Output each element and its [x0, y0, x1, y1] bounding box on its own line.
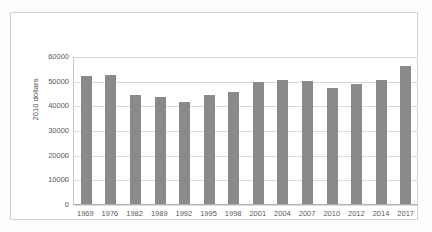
y-axis-tick-labels: 0100002000030000400005000060000	[15, 57, 69, 205]
bar[interactable]	[105, 75, 116, 204]
x-axis-tick-label: 2017	[393, 209, 418, 223]
x-axis-tick-label: 1982	[122, 209, 147, 223]
x-axis-tick-label: 1995	[196, 209, 221, 223]
bar[interactable]	[253, 82, 264, 204]
y-axis-tick-label: 30000	[17, 127, 69, 135]
bar[interactable]	[204, 95, 215, 204]
y-axis-tick-label: 50000	[17, 78, 69, 86]
chart-figure: 2010 dollars 010000200003000040000500006…	[0, 0, 432, 232]
x-axis-tick-label: 1969	[73, 209, 98, 223]
bar-slot	[99, 57, 124, 204]
y-axis-tick-label: 20000	[17, 152, 69, 160]
x-axis-tick-label: 2014	[369, 209, 394, 223]
bar-slot	[197, 57, 222, 204]
y-axis-tick-label: 40000	[17, 102, 69, 110]
x-axis-tick-label: 2004	[270, 209, 295, 223]
x-axis-tick-label: 1992	[172, 209, 197, 223]
bar[interactable]	[400, 66, 411, 204]
bar[interactable]	[376, 80, 387, 204]
bar[interactable]	[155, 97, 166, 204]
y-axis-tick-label: 0	[17, 201, 69, 209]
bar-slot	[246, 57, 271, 204]
bar-slot	[74, 57, 99, 204]
bar[interactable]	[351, 84, 362, 204]
bar-slot	[271, 57, 296, 204]
bar-slot	[369, 57, 394, 204]
x-axis-tick-label: 1998	[221, 209, 246, 223]
x-axis-tick-label: 2007	[295, 209, 320, 223]
bar[interactable]	[179, 102, 190, 204]
bar-slot	[320, 57, 345, 204]
bar[interactable]	[81, 76, 92, 204]
bar-slot	[221, 57, 246, 204]
bar-slot	[344, 57, 369, 204]
x-axis-tick-label: 1976	[98, 209, 123, 223]
bar[interactable]	[130, 95, 141, 204]
y-axis-tick-label: 60000	[17, 53, 69, 61]
bar-slot	[123, 57, 148, 204]
x-axis-tick-labels: 1969197619821989199219951998200120042007…	[73, 209, 418, 223]
y-axis-tick-label: 10000	[17, 176, 69, 184]
bar-slot	[394, 57, 419, 204]
plot-area	[73, 57, 418, 205]
chart-frame: 2010 dollars 010000200003000040000500006…	[10, 12, 418, 220]
x-axis-tick-label: 2012	[344, 209, 369, 223]
bar[interactable]	[228, 92, 239, 204]
x-axis-tick-label: 1989	[147, 209, 172, 223]
bar-slot	[148, 57, 173, 204]
bar[interactable]	[302, 81, 313, 204]
bar-slot	[295, 57, 320, 204]
bar[interactable]	[327, 88, 338, 204]
x-axis-tick-label: 2010	[319, 209, 344, 223]
bar-series	[74, 57, 418, 204]
gridline	[74, 205, 418, 206]
x-axis-tick-label: 2001	[245, 209, 270, 223]
bar-slot	[172, 57, 197, 204]
bar[interactable]	[277, 80, 288, 204]
